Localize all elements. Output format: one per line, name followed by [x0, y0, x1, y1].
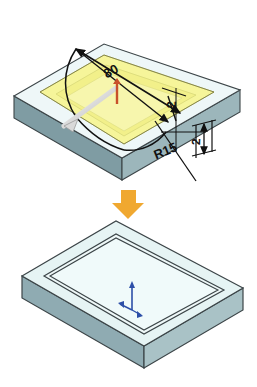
dimension-label-width: 2 [164, 101, 179, 109]
dimension-label-depth: 2 [189, 138, 203, 145]
upper-model-group: 80 2 R15 2 [14, 44, 240, 181]
operation-arrow [112, 190, 144, 219]
cad-illustration-svg: 80 2 R15 2 [0, 0, 257, 387]
illustration-canvas: 80 2 R15 2 [0, 0, 257, 387]
arrow-down-icon [112, 190, 144, 219]
lower-model-group [22, 221, 243, 368]
